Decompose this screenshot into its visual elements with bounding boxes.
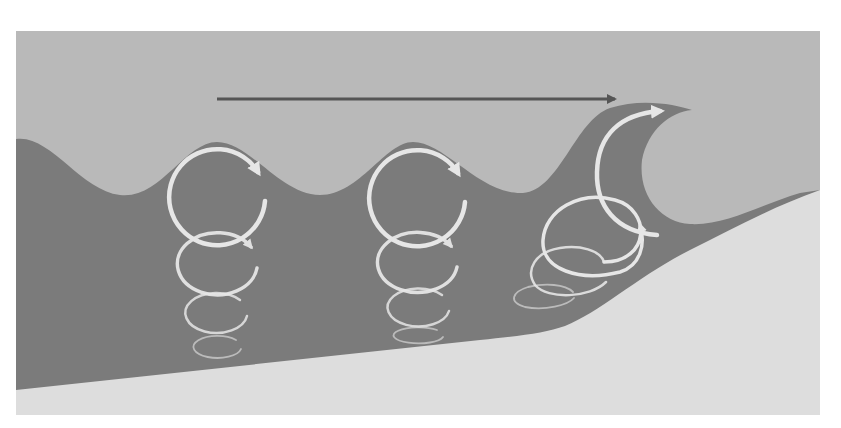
wave-diagram-canvas bbox=[0, 0, 841, 428]
